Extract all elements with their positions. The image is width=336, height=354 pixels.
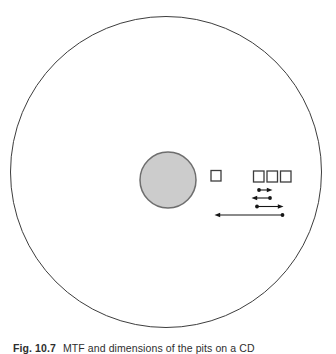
arrow-row-2 [252,196,272,201]
arrow-row-1 [257,188,272,193]
pit-square [281,171,292,182]
arrow-dot [268,196,272,200]
pit-square [267,171,278,182]
figure-caption: Fig. 10.7MTF and dimensions of the pits … [13,342,333,354]
arrowhead-right [267,188,273,193]
arrow-row-4 [215,213,285,218]
pit-group [254,171,292,182]
arrow-dot [281,213,285,217]
arrow-row-3 [255,204,283,209]
arrowhead-left [215,213,221,218]
center-hub-circle [140,152,196,208]
figure-caption-text: MTF and dimensions of the pits on a CD [63,342,255,354]
figure-canvas [0,0,336,340]
arrowhead-left [252,196,258,201]
figure-caption-label: Fig. 10.7 [13,342,56,354]
isolated-pit-square [211,171,221,182]
arrowhead-right [278,204,284,209]
figure-stage [0,0,336,340]
pit-square [254,171,265,182]
